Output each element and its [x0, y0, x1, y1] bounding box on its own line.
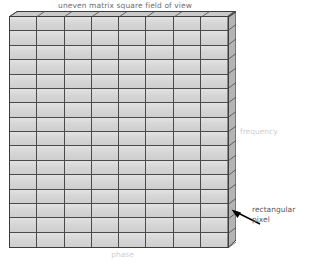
pixel-cell	[119, 60, 146, 74]
pixel-cell	[65, 60, 92, 74]
pixel-cell	[92, 31, 119, 45]
pixel-cell	[146, 190, 173, 204]
pixel-cell	[10, 17, 37, 31]
pixel-cell	[201, 89, 228, 103]
pixel-cell	[201, 31, 228, 45]
pixel-cell	[201, 118, 228, 132]
pixel-cell	[92, 17, 119, 31]
axis-label-phase: phase	[0, 250, 245, 259]
pixel-cell	[65, 204, 92, 218]
callout-line-1: rectangular	[252, 205, 295, 215]
figure-title: uneven matrix square field of view	[0, 1, 250, 10]
pixel-cell	[119, 103, 146, 117]
pixel-cell	[146, 31, 173, 45]
pixel-cell	[10, 233, 37, 247]
pixel-cell	[10, 204, 37, 218]
pixel-cell	[174, 204, 201, 218]
pixel-cell	[92, 118, 119, 132]
pixel-cell	[146, 75, 173, 89]
pixel-cell	[37, 204, 64, 218]
pixel-cell	[119, 233, 146, 247]
pixel-cell	[146, 175, 173, 189]
pixel-cell	[37, 190, 64, 204]
pixel-cell	[146, 233, 173, 247]
pixel-cell	[146, 118, 173, 132]
pixel-cell	[92, 175, 119, 189]
pixel-cell	[174, 75, 201, 89]
pixel-cell	[92, 146, 119, 160]
pixel-cell	[174, 17, 201, 31]
pixel-cell	[10, 103, 37, 117]
pixel-cell	[92, 190, 119, 204]
pixel-cell	[10, 46, 37, 60]
pixel-cell	[65, 17, 92, 31]
pixel-cell	[201, 218, 228, 232]
matrix-block-3d	[9, 11, 236, 248]
pixel-cell	[119, 161, 146, 175]
pixel-cell	[10, 175, 37, 189]
pixel-cell	[10, 75, 37, 89]
pixel-cell	[92, 218, 119, 232]
pixel-cell	[174, 190, 201, 204]
pixel-cell	[119, 146, 146, 160]
pixel-cell	[119, 204, 146, 218]
pixel-cell	[37, 17, 64, 31]
pixel-cell	[92, 132, 119, 146]
pixel-cell	[119, 17, 146, 31]
pixel-cell	[201, 204, 228, 218]
pixel-cell	[37, 218, 64, 232]
pixel-cell	[119, 175, 146, 189]
pixel-cell	[65, 46, 92, 60]
pixel-cell	[174, 146, 201, 160]
pixel-cell	[119, 118, 146, 132]
pixel-cell	[146, 161, 173, 175]
pixel-cell	[65, 146, 92, 160]
matrix-field-of-view-figure: uneven matrix square field of view frequ…	[0, 0, 309, 268]
pixel-cell	[37, 75, 64, 89]
pixel-cell	[10, 132, 37, 146]
pixel-cell	[10, 31, 37, 45]
pixel-cell	[65, 89, 92, 103]
pixel-cell	[146, 46, 173, 60]
pixel-cell	[10, 89, 37, 103]
pixel-cell	[119, 132, 146, 146]
pixel-cell	[201, 103, 228, 117]
callout-rectangular-pixel: rectangular pixel	[252, 205, 295, 225]
pixel-cell	[92, 233, 119, 247]
pixel-cell	[10, 161, 37, 175]
pixel-cell	[174, 161, 201, 175]
pixel-grid	[9, 16, 229, 248]
pixel-cell	[119, 218, 146, 232]
pixel-cell	[201, 132, 228, 146]
pixel-cell	[201, 75, 228, 89]
pixel-cell	[10, 118, 37, 132]
pixel-cell	[174, 46, 201, 60]
pixel-cell	[146, 146, 173, 160]
pixel-cell	[174, 89, 201, 103]
pixel-cell	[174, 132, 201, 146]
pixel-cell	[174, 31, 201, 45]
pixel-cell	[92, 204, 119, 218]
pixel-cell	[37, 89, 64, 103]
pixel-cell	[65, 31, 92, 45]
pixel-cell	[65, 233, 92, 247]
pixel-cell	[146, 204, 173, 218]
pixel-cell	[201, 46, 228, 60]
pixel-cell	[146, 218, 173, 232]
pixel-cell	[174, 218, 201, 232]
pixel-cell	[92, 103, 119, 117]
pixel-cell	[10, 218, 37, 232]
pixel-cell	[146, 103, 173, 117]
pixel-cell	[10, 190, 37, 204]
pixel-cell	[65, 161, 92, 175]
pixel-cell	[10, 146, 37, 160]
pixel-cell	[174, 233, 201, 247]
pixel-cell	[65, 75, 92, 89]
pixel-cell	[37, 118, 64, 132]
pixel-cell	[37, 132, 64, 146]
pixel-cell	[201, 190, 228, 204]
pixel-cell	[119, 89, 146, 103]
pixel-cell	[201, 175, 228, 189]
pixel-cell	[119, 31, 146, 45]
callout-line-2: pixel	[252, 215, 295, 225]
